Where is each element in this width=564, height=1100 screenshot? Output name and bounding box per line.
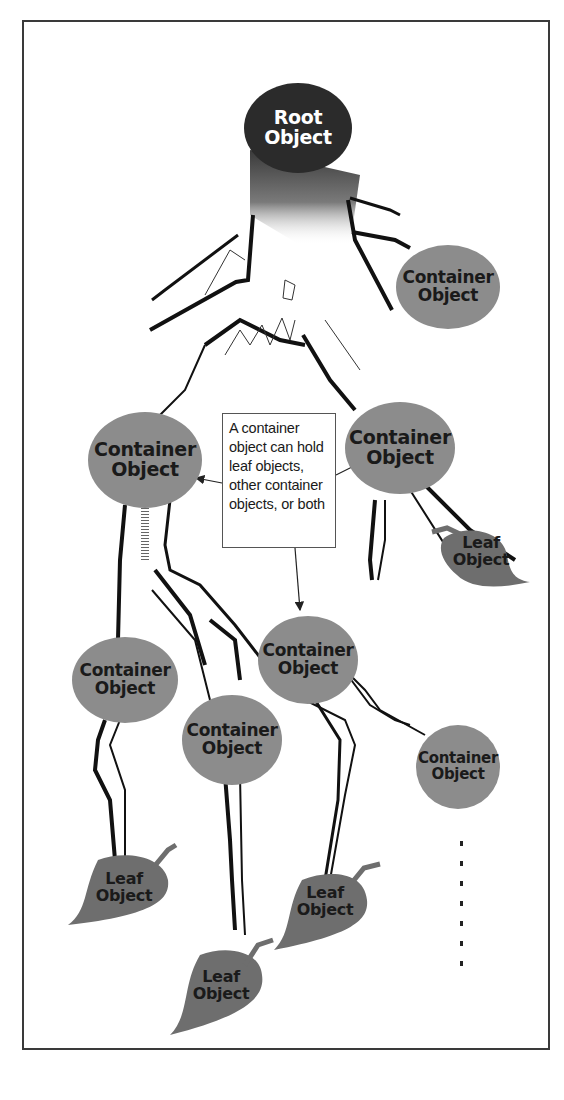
leaf-label-line2: Object xyxy=(193,986,250,1003)
container-label-line1: Container xyxy=(94,440,196,460)
container-object-node: Container Object xyxy=(396,264,500,310)
container-label-line2: Object xyxy=(111,460,179,480)
leaf-label-line2: Object xyxy=(96,888,153,905)
leaf-object-node: Leaf Object xyxy=(186,964,256,1008)
container-object-node: Container Object xyxy=(345,422,455,474)
root-label-line1: Root xyxy=(274,108,323,128)
container-object-node: Container Object xyxy=(72,656,178,704)
leaf-label-line2: Object xyxy=(297,902,354,919)
leaf-label-line2: Object xyxy=(453,552,510,569)
callout-line: leaf objects, xyxy=(229,457,329,476)
root-label-line2: Object xyxy=(264,128,332,148)
container-label-line2: Object xyxy=(202,740,262,758)
ellipsis-vertical-icon xyxy=(460,841,463,966)
container-label-line2: Object xyxy=(278,660,338,678)
callout-line: other container xyxy=(229,476,329,495)
container-object-node: Container Object xyxy=(416,746,500,788)
leaf-object-node: Leaf Object xyxy=(446,530,516,574)
container-object-node: Container Object xyxy=(258,636,358,684)
container-label-line2: Object xyxy=(95,680,155,698)
callout-line: A container xyxy=(229,419,329,438)
container-label-line1: Container xyxy=(349,428,451,448)
trunk xyxy=(150,150,410,420)
container-label-line2: Object xyxy=(418,287,478,305)
container-label-line2: Object xyxy=(366,448,434,468)
container-label-line2: Object xyxy=(431,767,484,783)
callout-box: A container object can hold leaf objects… xyxy=(222,413,336,548)
container-object-node: Container Object xyxy=(182,716,282,764)
container-object-node: Container Object xyxy=(88,434,202,486)
root-object-node: Root Object xyxy=(244,98,352,158)
callout-line: objects, or both xyxy=(229,495,329,514)
callout-line: object can hold xyxy=(229,438,329,457)
leaf-object-node: Leaf Object xyxy=(288,880,362,924)
leaf-object-node: Leaf Object xyxy=(88,866,160,910)
